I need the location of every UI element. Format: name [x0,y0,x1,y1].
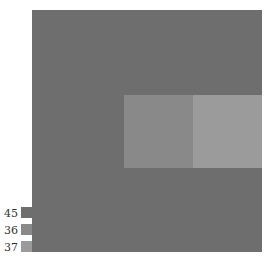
legend-label: 37 [4,241,18,255]
legend-label: 36 [4,224,18,238]
legend-swatch [21,207,32,218]
region-36 [124,95,193,168]
legend-swatch [21,241,32,252]
legend-swatch [21,224,32,235]
legend-item: 37 [2,240,32,255]
legend: 45 36 37 [2,206,32,257]
heatmap-plot [32,10,262,252]
legend-item: 45 [2,206,32,221]
legend-item: 36 [2,223,32,238]
region-37 [193,95,262,168]
legend-label: 45 [4,207,18,221]
